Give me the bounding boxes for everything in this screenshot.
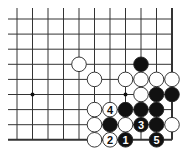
black-stone bbox=[149, 87, 164, 102]
move-number-label: 5 bbox=[153, 134, 159, 146]
black-stone-move-3: 3 bbox=[134, 117, 149, 132]
black-stone bbox=[103, 117, 118, 132]
white-stone bbox=[134, 87, 149, 102]
white-stone-move-2: 2 bbox=[103, 133, 118, 148]
white-stone bbox=[134, 72, 149, 87]
black-stone-icon bbox=[165, 87, 180, 102]
white-stone bbox=[87, 102, 102, 117]
black-stone-move-5: 5 bbox=[149, 133, 164, 148]
white-stone-icon bbox=[134, 87, 149, 102]
white-stone bbox=[118, 117, 133, 132]
star-point-icon bbox=[31, 93, 35, 97]
white-stone-icon bbox=[165, 72, 180, 87]
star-point-icon bbox=[124, 93, 128, 97]
black-stone-move-1: 1 bbox=[118, 133, 133, 148]
black-stone-icon bbox=[149, 102, 164, 117]
white-stone-icon bbox=[87, 117, 102, 132]
white-stone-icon bbox=[118, 117, 133, 132]
black-stone-icon bbox=[149, 87, 164, 102]
black-stone bbox=[165, 87, 180, 102]
white-stone bbox=[72, 57, 87, 72]
black-stone-icon bbox=[103, 117, 118, 132]
white-stone-icon bbox=[87, 133, 102, 148]
black-stone bbox=[134, 57, 149, 72]
white-stone-icon bbox=[118, 72, 133, 87]
white-stone bbox=[87, 133, 102, 148]
white-stone bbox=[118, 72, 133, 87]
white-stone bbox=[149, 72, 164, 87]
white-stone-icon bbox=[87, 72, 102, 87]
white-stone bbox=[87, 117, 102, 132]
white-stone bbox=[87, 72, 102, 87]
black-stone-icon bbox=[134, 102, 149, 117]
white-stone-icon bbox=[72, 57, 87, 72]
move-number-label: 4 bbox=[107, 104, 114, 116]
white-stone-icon bbox=[149, 72, 164, 87]
black-stone bbox=[134, 102, 149, 117]
move-number-label: 1 bbox=[122, 134, 128, 146]
black-stone bbox=[149, 117, 164, 132]
white-stone-move-4: 4 bbox=[103, 102, 118, 117]
black-stone bbox=[149, 102, 164, 117]
black-stone-icon bbox=[118, 102, 133, 117]
go-board-diagram: 43215 bbox=[0, 0, 184, 155]
move-number-label: 2 bbox=[107, 134, 113, 146]
white-stone-icon bbox=[134, 72, 149, 87]
white-stone-icon bbox=[87, 102, 102, 117]
white-stone bbox=[165, 117, 180, 132]
black-stone-icon bbox=[149, 117, 164, 132]
black-stone bbox=[118, 102, 133, 117]
move-number-label: 3 bbox=[138, 119, 144, 131]
white-stone bbox=[165, 72, 180, 87]
black-stone-icon bbox=[134, 57, 149, 72]
white-stone-icon bbox=[165, 117, 180, 132]
